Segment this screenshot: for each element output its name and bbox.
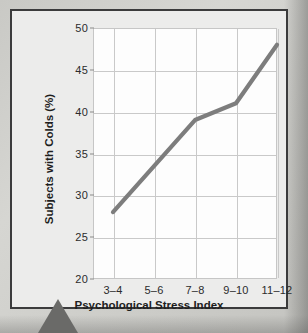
gridline-vertical bbox=[278, 29, 279, 278]
x-axis-tick-label: 9–10 bbox=[223, 284, 248, 296]
y-axis-tick-label: 30 bbox=[60, 189, 88, 201]
pointer-artifact bbox=[38, 299, 78, 333]
y-axis-tick-label: 50 bbox=[60, 22, 88, 34]
y-axis-tick-label: 35 bbox=[60, 148, 88, 160]
x-axis-tick-label: 11–12 bbox=[262, 284, 293, 296]
y-axis-tick-label: 45 bbox=[60, 64, 88, 76]
line-chart: 20253035404550 3–45–67–89–1011–12 Subjec… bbox=[12, 11, 286, 307]
x-axis-tick-label: 7–8 bbox=[186, 284, 205, 296]
figure-frame: 20253035404550 3–45–67–89–1011–12 Subjec… bbox=[10, 9, 288, 309]
y-axis-tick-label: 25 bbox=[60, 231, 88, 243]
screenshot-root: 20253035404550 3–45–67–89–1011–12 Subjec… bbox=[0, 0, 308, 333]
y-axis-title: Subjects with Colds (%) bbox=[43, 59, 55, 259]
y-axis-tick-label: 20 bbox=[60, 273, 88, 285]
x-axis-tick-label: 5–6 bbox=[145, 284, 164, 296]
data-series-line bbox=[93, 28, 277, 279]
x-axis-tick-label: 3–4 bbox=[104, 284, 123, 296]
y-axis-tick-label: 40 bbox=[60, 106, 88, 118]
